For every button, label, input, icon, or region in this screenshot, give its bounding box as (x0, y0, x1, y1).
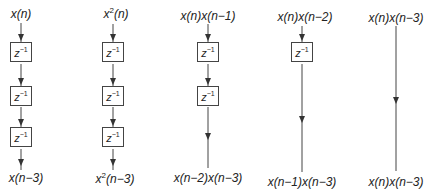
col3-input-label: x(n)x(n−1) (180, 10, 235, 23)
col2-delay-block-1: z−1 (102, 42, 124, 62)
col1-input-label: x(n) (11, 8, 32, 21)
col1-delay-block-2: z−1 (10, 86, 32, 106)
col1-output-label: x(n−3) (9, 172, 43, 185)
col5-output-label: x(n)x(n−3) (368, 176, 423, 189)
col5-input-label: x(n)x(n−3) (368, 12, 423, 25)
col2-delay-block-2: z−1 (102, 86, 124, 106)
col4-delay-block-1: z−1 (291, 42, 313, 62)
col4-input-label: x(n)x(n−2) (277, 11, 332, 24)
col2-delay-block-3: z−1 (102, 127, 124, 147)
col3-delay-block-2: z−1 (197, 86, 219, 106)
col3-output-label: x(n−2)x(n−3) (174, 172, 243, 185)
col1-delay-block-3: z−1 (10, 127, 32, 147)
col3-delay-block-1: z−1 (197, 42, 219, 62)
col4-output-label: x(n−1)x(n−3) (268, 176, 337, 189)
col2-output-label: x2(n−3) (96, 173, 135, 186)
col1-delay-block-1: z−1 (10, 42, 32, 62)
col2-input-label: x2(n) (103, 8, 128, 21)
